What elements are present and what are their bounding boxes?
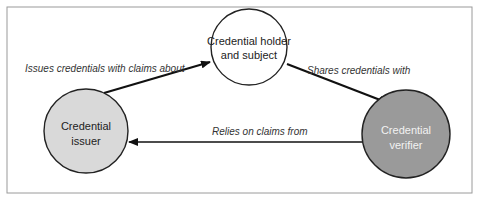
node-credential-issuer: Credential issuer	[44, 89, 128, 173]
node-issuer-line1: Credential	[61, 120, 111, 132]
node-holder-line1: Credential holder	[207, 35, 291, 47]
node-issuer-line2: issuer	[71, 135, 101, 147]
diagram-canvas: Issues credentials with claims about Sha…	[0, 0, 478, 200]
node-credential-verifier: Credential verifier	[362, 90, 450, 178]
edge-label-relies: Relies on claims from	[212, 126, 308, 137]
edge-label-issues: Issues credentials with claims about	[25, 63, 186, 74]
node-verifier-line1: Credential	[381, 124, 431, 136]
edge-label-shares: Shares credentials with	[307, 65, 411, 76]
node-holder-line2: and subject	[221, 49, 277, 61]
node-verifier-line2: verifier	[389, 139, 422, 151]
